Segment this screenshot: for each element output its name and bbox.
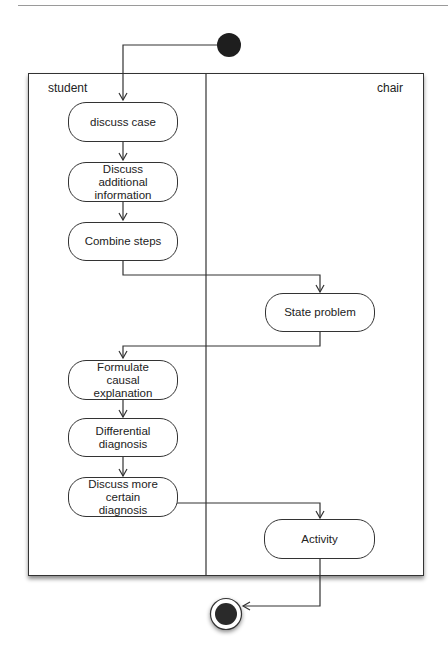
edges-layer bbox=[0, 0, 448, 667]
initial-node-icon bbox=[217, 33, 241, 57]
activity-combine-steps: Combine steps bbox=[68, 222, 178, 261]
activity-formulate-causal-explanation: Formulate causal explanation bbox=[68, 360, 178, 400]
activity-state-problem: State problem bbox=[265, 293, 375, 332]
activity-differential-diagnosis: Differential diagnosis bbox=[68, 418, 178, 457]
activity-discuss-additional-information: Discuss additional information bbox=[68, 162, 178, 202]
activity-activity: Activity bbox=[264, 519, 375, 559]
activity-discuss-case: discuss case bbox=[68, 102, 178, 142]
activity-discuss-more-certain-diagnosis: Discuss more certain diagnosis bbox=[68, 477, 178, 517]
